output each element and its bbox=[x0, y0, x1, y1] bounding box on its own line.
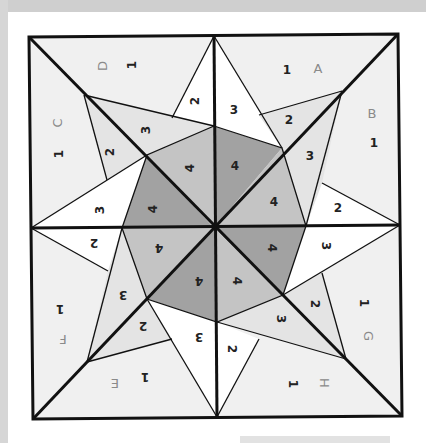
num-F2: 2 bbox=[90, 236, 98, 250]
num-F3: 3 bbox=[119, 288, 127, 302]
section-letter-A: A bbox=[314, 61, 323, 76]
num-F4: 4 bbox=[155, 241, 163, 255]
num-A2: 2 bbox=[285, 113, 293, 127]
num-G3: 3 bbox=[319, 242, 333, 250]
num-A1: 1 bbox=[283, 63, 291, 77]
num-B1: 1 bbox=[370, 136, 378, 150]
num-F1: 1 bbox=[56, 302, 64, 316]
num-H2: 2 bbox=[225, 345, 239, 353]
num-C1: 1 bbox=[52, 150, 66, 158]
num-H1: 1 bbox=[286, 380, 300, 388]
num-G1: 1 bbox=[357, 299, 371, 307]
section-letter-F: F bbox=[59, 332, 66, 347]
section-letter-B: B bbox=[368, 106, 377, 121]
num-A3: 3 bbox=[230, 103, 238, 117]
section-letter-C: C bbox=[50, 118, 65, 127]
num-D1: 1 bbox=[125, 61, 139, 69]
section-letter-H: H bbox=[317, 378, 332, 388]
num-E4: 4 bbox=[195, 274, 203, 288]
num-E1: 1 bbox=[141, 370, 149, 384]
num-D3: 3 bbox=[139, 126, 153, 134]
num-E3: 3 bbox=[195, 330, 203, 344]
num-B3: 3 bbox=[306, 149, 314, 163]
num-C2: 2 bbox=[103, 148, 117, 156]
section-letter-D: D bbox=[95, 61, 110, 71]
num-E2: 2 bbox=[139, 319, 147, 333]
num-D2: 2 bbox=[188, 97, 202, 105]
num-C4: 4 bbox=[146, 205, 160, 213]
num-G4: 4 bbox=[265, 244, 279, 252]
section-letter-E: E bbox=[111, 376, 119, 391]
num-C3: 3 bbox=[93, 206, 107, 214]
num-G2: 2 bbox=[308, 300, 322, 308]
num-A4: 4 bbox=[231, 159, 239, 173]
num-B4: 4 bbox=[270, 195, 278, 209]
section-letter-G: G bbox=[361, 331, 376, 341]
num-H4: 4 bbox=[230, 277, 244, 285]
num-D4: 4 bbox=[183, 164, 197, 172]
num-B2: 2 bbox=[334, 201, 342, 215]
num-H3: 3 bbox=[274, 315, 288, 323]
quilt-block-diagram: A B C D E F G H 1 1 1 1 1 1 1 1 2 2 2 2 … bbox=[0, 0, 426, 443]
